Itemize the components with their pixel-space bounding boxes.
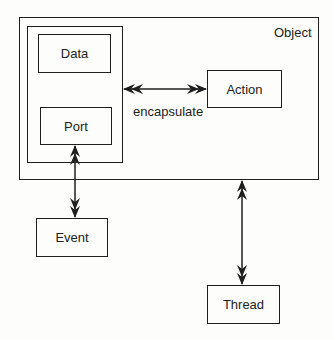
object-thread-arrow-icon [237,180,247,285]
arrows-layer [0,0,333,340]
port-event-arrow-icon [70,145,80,218]
encapsulate-arrow-icon [123,84,207,94]
